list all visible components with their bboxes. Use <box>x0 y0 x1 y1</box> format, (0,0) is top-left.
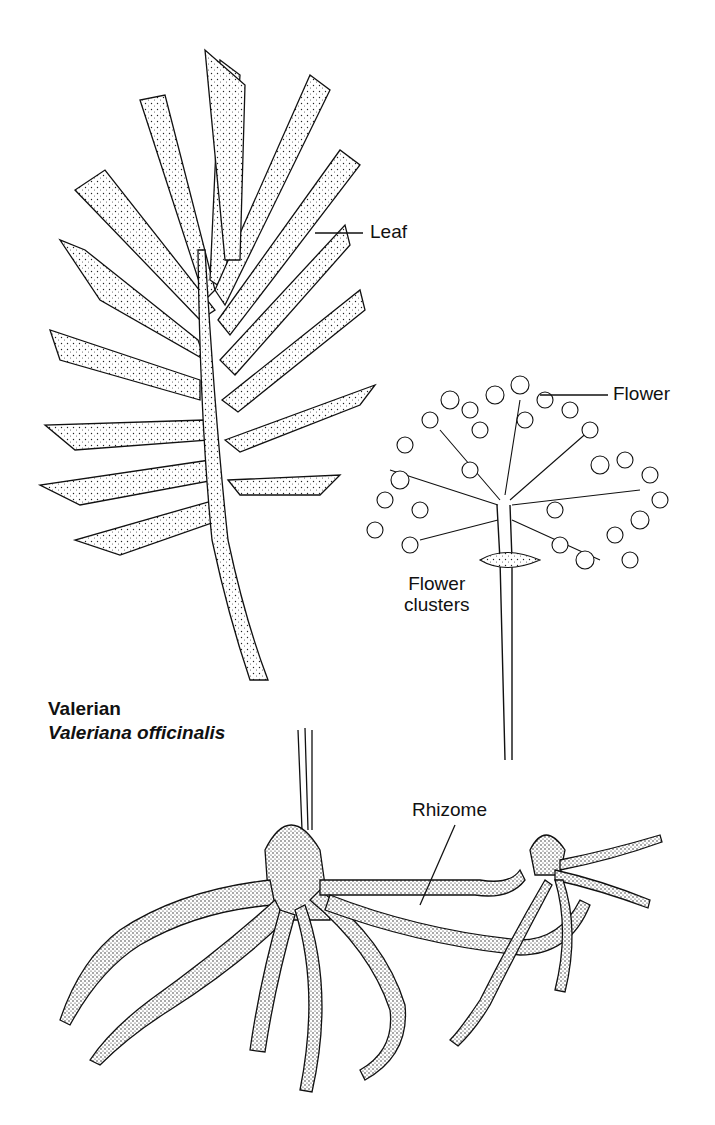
flower-clusters-label-line1: Flower <box>404 574 469 595</box>
flower-cluster-drawing <box>367 376 668 760</box>
leaf-drawing <box>40 50 375 680</box>
leaf-label: Leaf <box>370 222 407 243</box>
botanical-illustration <box>0 0 715 1125</box>
rhizome-label: Rhizome <box>412 800 487 821</box>
flower-clusters-label: Flower clusters <box>404 574 469 616</box>
plant-title: Valerian Valeriana officinalis <box>48 697 225 745</box>
flower-clusters-label-line2: clusters <box>404 595 469 616</box>
common-name: Valerian <box>48 698 121 719</box>
rhizome-drawing <box>60 728 662 1092</box>
flower-label: Flower <box>613 384 670 405</box>
scientific-name: Valeriana officinalis <box>48 721 225 745</box>
